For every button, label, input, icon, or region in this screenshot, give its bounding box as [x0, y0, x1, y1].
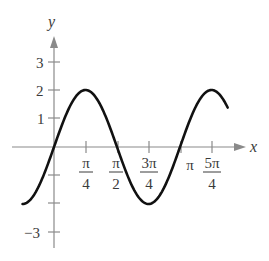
y-tick-label-2: 2	[36, 83, 44, 99]
x-axis-label: x	[249, 138, 257, 155]
x-tick-label-5pi-over-4: 5π 4	[203, 155, 221, 192]
svg-text:π: π	[112, 155, 120, 171]
svg-text:4: 4	[82, 176, 90, 192]
svg-text:3π: 3π	[141, 155, 157, 171]
svg-text:π: π	[82, 155, 90, 171]
y-axis-arrow-icon	[50, 36, 58, 48]
y-tick-label-3: 3	[36, 55, 44, 71]
svg-text:2: 2	[112, 176, 120, 192]
svg-text:4: 4	[208, 176, 216, 192]
svg-text:4: 4	[145, 176, 153, 192]
chart: x y 3 2 1 −3 π 4 π 2 3π 4 π 5π 4	[0, 0, 269, 261]
x-tick-label-pi: π	[186, 157, 194, 173]
y-axis-label: y	[46, 13, 56, 31]
svg-text:5π: 5π	[204, 155, 220, 171]
x-axis-arrow-icon	[234, 143, 246, 151]
x-tick-label-3pi-over-4: 3π 4	[140, 155, 158, 192]
y-tick-label-neg3: −3	[24, 225, 40, 241]
y-tick-label-1: 1	[37, 111, 45, 127]
x-tick-label-pi-over-4: π 4	[79, 155, 93, 192]
